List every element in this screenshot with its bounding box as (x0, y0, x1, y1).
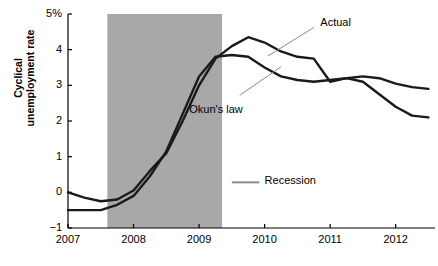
x-axis-tick-label: 2010 (237, 233, 293, 245)
y-axis-tick-label: 2 (20, 114, 62, 126)
y-axis-tick-label: 3 (20, 78, 62, 90)
actual-leader-line (268, 28, 314, 57)
y-axis-tick-label: 1 (20, 150, 62, 162)
cyclical-unemployment-chart: Cyclical unemployment rate −1012345%2007… (0, 0, 438, 266)
y-axis-tick-label: 4 (20, 43, 62, 55)
y-axis-tick-label: 0 (20, 185, 62, 197)
y-axis-tick-label: −1 (20, 221, 62, 233)
plot-area (0, 0, 438, 266)
annotation-recession: Recession (265, 174, 316, 186)
annotation-okuns-law: Okun's law (189, 103, 242, 115)
y-axis-tick-label: 5% (20, 7, 62, 19)
x-axis-tick-label: 2007 (40, 233, 96, 245)
x-axis-tick-label: 2012 (368, 233, 424, 245)
annotation-actual: Actual (320, 16, 351, 28)
x-axis-tick-label: 2008 (106, 233, 162, 245)
x-axis-tick-label: 2009 (171, 233, 227, 245)
okuns-law-leader-line (240, 67, 281, 96)
x-axis-tick-label: 2011 (302, 233, 358, 245)
